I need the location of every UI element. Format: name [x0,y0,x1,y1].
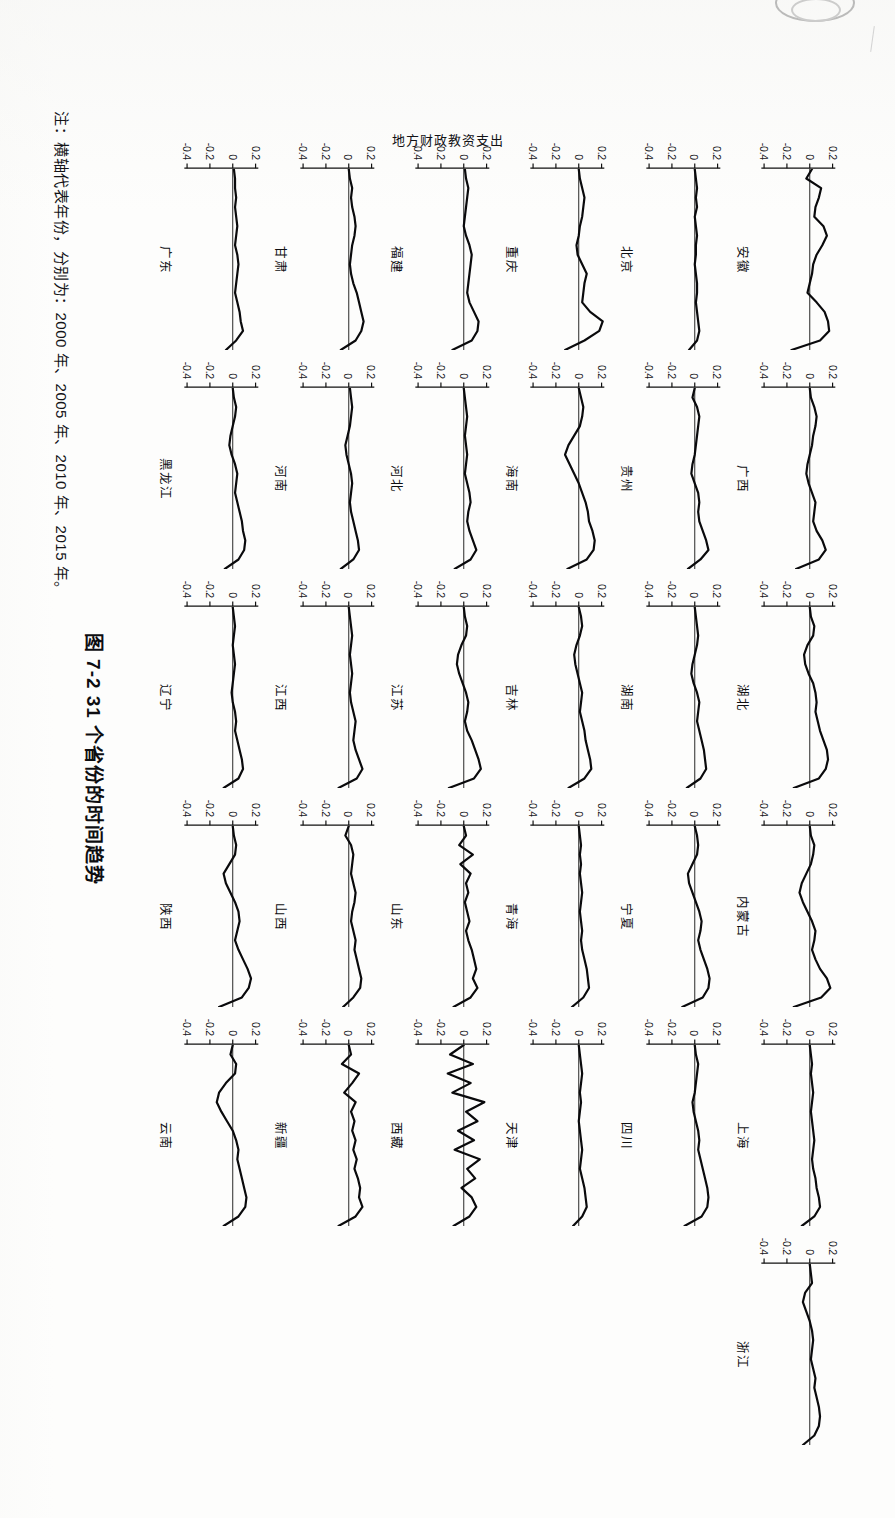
province-panel: 0.20-0.2-0.4黑龙江 [154,354,267,569]
figure-rotated-frame: 0.20-0.2-0.4安徽0.20-0.2-0.4广西0.20-0.2-0.4… [48,69,848,1449]
y-tick-label: -0.4 [296,362,308,379]
y-tick-label: 0 [803,373,815,379]
panel-title: 江苏 [384,607,406,788]
panel-cell: 0.20-0.2-0.4江苏 [384,573,497,788]
panel-cell: 0.20-0.2-0.4湖南 [615,573,728,788]
panel-cell: 0.20-0.2-0.4黑龙江 [154,354,267,569]
panel-cell: 0.20-0.2-0.4浙江 [730,1230,843,1445]
panel-title: 江西 [269,607,291,788]
y-tick-labels: 0.20-0.2-0.4 [522,134,613,160]
y-tick-label: 0.2 [711,1022,723,1036]
series-plot [752,1045,843,1226]
panel-cell: 0.20-0.2-0.4广西 [730,354,843,569]
y-tick-label: 0.2 [249,584,261,598]
y-tick-label: 0.2 [595,1022,607,1036]
panel-title: 安徽 [730,169,752,350]
panel-title: 陕西 [154,826,176,1007]
y-tick-label: -0.2 [319,143,331,160]
y-tick-label: -0.4 [412,362,424,379]
y-tick-label: -0.2 [319,1019,331,1036]
panel-title: 北京 [615,169,637,350]
y-tick-label: -0.2 [780,362,792,379]
plot-area: 0.20-0.2-0.4 [637,135,728,350]
panel-cell: 0.20-0.2-0.4河南 [269,354,382,569]
panel-title: 甘肃 [269,169,291,350]
y-tick-label: 0 [688,373,700,379]
series-plot [406,169,497,350]
y-tick-labels: 0.20-0.2-0.4 [637,572,728,598]
y-tick-label: 0.2 [595,584,607,598]
panel-title: 海南 [500,388,522,569]
y-tick-label: 0 [227,592,239,598]
y-tick-label: 0.2 [249,803,261,817]
plot-area: 0.20-0.2-0.4 [522,573,613,788]
plot-area: 0.20-0.2-0.4 [291,1011,382,1226]
y-tick-label: 0 [342,154,354,160]
y-tick-label: 0 [803,154,815,160]
panel-title: 湖北 [730,607,752,788]
panel-cell: 0.20-0.2-0.4辽宁 [154,573,267,788]
panel-title: 青海 [500,826,522,1007]
panel-title: 广东 [154,169,176,350]
y-tick-label: -0.2 [319,581,331,598]
plot-area: 0.20-0.2-0.4 [406,135,497,350]
y-axis: 0.20-0.2-0.4 [637,354,728,388]
province-panel: 0.20-0.2-0.4山东 [384,792,497,1007]
y-tick-label: 0.2 [711,365,723,379]
y-tick-label: 0.2 [711,146,723,160]
series-plot [752,388,843,569]
y-axis: 0.20-0.2-0.4 [406,1011,497,1045]
y-tick-label: -0.4 [181,143,193,160]
y-tick-label: -0.2 [434,1019,446,1036]
panel-cell: 0.20-0.2-0.4新疆 [269,1011,382,1226]
panel-cell: 0.20-0.2-0.4甘肃 [269,135,382,350]
y-tick-label: 0.2 [595,146,607,160]
y-tick-label: 0.2 [249,365,261,379]
y-axis: 0.20-0.2-0.4 [522,792,613,826]
y-tick-label: -0.2 [204,581,216,598]
y-tick-label: -0.2 [204,1019,216,1036]
series-plot [176,607,267,788]
y-tick-label: -0.4 [527,143,539,160]
y-tick-label: -0.4 [527,581,539,598]
y-tick-labels: 0.20-0.2-0.4 [176,791,267,817]
panel-title: 湖南 [615,607,637,788]
series-plot [176,826,267,1007]
panel-title: 广西 [730,388,752,569]
plot-area: 0.20-0.2-0.4 [176,1011,267,1226]
y-tick-labels: 0.20-0.2-0.4 [522,1010,613,1036]
series-plot [752,826,843,1007]
y-tick-label: 0.2 [826,1022,838,1036]
panel-title: 新疆 [269,1045,291,1226]
series-plot [406,1045,497,1226]
y-tick-label: -0.4 [642,1019,654,1036]
province-panel: 0.20-0.2-0.4河南 [269,354,382,569]
y-tick-label: -0.2 [550,362,562,379]
plot-area: 0.20-0.2-0.4 [752,1011,843,1226]
y-tick-label: -0.2 [204,362,216,379]
province-panel: 0.20-0.2-0.4广东 [154,135,267,350]
province-panel: 0.20-0.2-0.4广西 [730,354,843,569]
y-tick-label: 0 [688,811,700,817]
province-panel: 0.20-0.2-0.4四川 [615,1011,728,1226]
y-tick-label: -0.2 [665,143,677,160]
y-tick-label: 0 [457,373,469,379]
province-panel: 0.20-0.2-0.4辽宁 [154,573,267,788]
y-tick-label: -0.4 [758,1019,770,1036]
panel-title: 福建 [384,169,406,350]
province-panel: 0.20-0.2-0.4甘肃 [269,135,382,350]
y-tick-labels: 0.20-0.2-0.4 [176,353,267,379]
figure-note: 注：横轴代表年份，分别为：2000 年、2005 年、2010 年、2015 年… [52,111,73,1427]
y-tick-label: -0.4 [642,581,654,598]
y-tick-labels: 0.20-0.2-0.4 [637,134,728,160]
y-axis: 0.20-0.2-0.4 [637,135,728,169]
y-tick-label: 0.2 [711,803,723,817]
series-plot [637,1045,728,1226]
y-axis: 0.20-0.2-0.4 [176,135,267,169]
y-tick-label: -0.2 [550,143,562,160]
y-tick-label: 0 [803,811,815,817]
y-tick-label: -0.2 [550,581,562,598]
panel-title: 辽宁 [154,607,176,788]
panel-title: 黑龙江 [154,388,176,569]
y-tick-label: -0.4 [758,581,770,598]
